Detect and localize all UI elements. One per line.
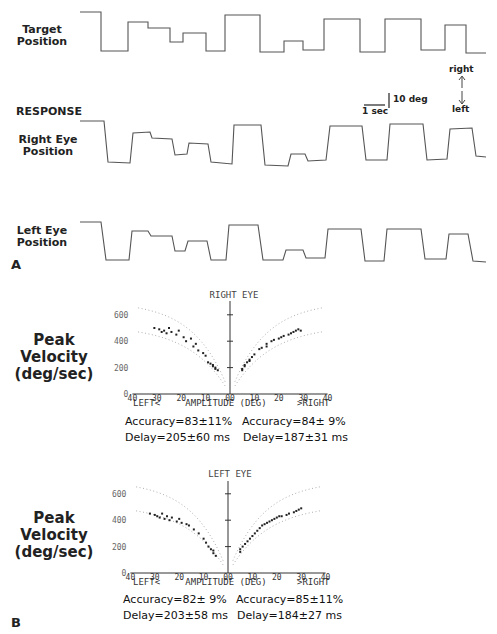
direction-arrow-icon xyxy=(459,76,465,104)
data-point xyxy=(149,513,151,515)
data-point xyxy=(259,527,261,529)
right-eye-position-trace xyxy=(80,121,486,166)
data-point xyxy=(168,519,170,521)
direction-right-label: right xyxy=(449,64,474,74)
data-point xyxy=(156,515,158,517)
y-tick-label: 400 xyxy=(112,516,127,525)
data-point xyxy=(188,524,190,526)
data-point xyxy=(268,521,270,523)
data-point xyxy=(278,338,280,340)
data-point xyxy=(209,363,211,365)
data-point xyxy=(288,334,290,336)
data-point xyxy=(264,523,266,525)
data-point xyxy=(283,335,285,337)
data-point xyxy=(295,510,297,512)
data-point xyxy=(244,543,246,545)
y-tick-label: 200 xyxy=(114,364,129,373)
data-point xyxy=(185,340,187,342)
data-point xyxy=(261,347,263,349)
x-center-label: AMPLITUDE (DEG) xyxy=(185,398,266,408)
x-tick-label: 20 xyxy=(274,394,284,403)
data-point xyxy=(292,331,294,333)
data-point xyxy=(197,349,199,351)
data-point xyxy=(290,332,292,334)
data-point xyxy=(242,546,244,548)
y-tick-label: 600 xyxy=(114,311,129,320)
data-point xyxy=(239,548,241,550)
data-point xyxy=(181,522,183,524)
data-point xyxy=(270,340,272,342)
data-point xyxy=(239,551,241,553)
plot-title: LEFT EYE xyxy=(208,469,251,479)
right-eye-scatter-plot: RIGHT EYE 6004002000 403020100010203040 … xyxy=(0,285,497,455)
data-point xyxy=(164,518,166,520)
scale-vertical-label: 10 deg xyxy=(393,94,428,104)
data-point xyxy=(247,540,249,542)
data-point xyxy=(161,513,163,515)
y-tick-label: 600 xyxy=(112,490,127,499)
data-point xyxy=(212,365,214,367)
data-point xyxy=(278,515,280,517)
data-point xyxy=(166,515,168,517)
data-point xyxy=(170,331,172,333)
left-eye-position-trace xyxy=(80,222,486,262)
data-point xyxy=(300,507,302,509)
plot1-right-accuracy: Accuracy=84± 9% xyxy=(242,415,346,428)
data-point xyxy=(266,345,268,347)
data-point xyxy=(163,330,165,332)
data-point xyxy=(280,336,282,338)
x-center-label: AMPLITUDE (DEG) xyxy=(185,577,266,587)
data-point xyxy=(210,548,212,550)
data-point xyxy=(244,364,246,366)
data-point xyxy=(295,330,297,332)
data-point xyxy=(166,332,168,334)
data-point xyxy=(297,328,299,330)
data-point xyxy=(256,530,258,532)
data-point xyxy=(273,339,275,341)
data-point xyxy=(249,538,251,540)
direction-left-label: left xyxy=(452,104,469,114)
data-point xyxy=(214,368,216,370)
x-right-label: >RIGHT xyxy=(297,398,330,408)
data-point xyxy=(153,327,155,329)
data-point xyxy=(281,515,283,517)
data-point xyxy=(207,546,209,548)
data-point xyxy=(192,345,194,347)
data-point xyxy=(254,532,256,534)
data-point xyxy=(251,356,253,358)
data-point xyxy=(266,522,268,524)
data-point xyxy=(271,519,273,521)
data-point xyxy=(258,348,260,350)
plot2-right-accuracy: Accuracy=85±11% xyxy=(236,593,343,606)
data-point xyxy=(168,327,170,329)
plot2-right-delay: Delay=184±27 ms xyxy=(237,609,342,622)
y-tick-label: 400 xyxy=(114,337,129,346)
data-point xyxy=(246,361,248,363)
data-point xyxy=(186,523,188,525)
data-point xyxy=(212,550,214,552)
data-point xyxy=(241,368,243,370)
data-point xyxy=(178,330,180,332)
data-point xyxy=(293,511,295,513)
plot1-left-accuracy: Accuracy=83±11% xyxy=(125,415,232,428)
scale-horizontal-label: 1 sec xyxy=(362,106,388,116)
data-point xyxy=(171,517,173,519)
data-point xyxy=(273,518,275,520)
plot-title: RIGHT EYE xyxy=(210,290,259,300)
data-point xyxy=(212,552,214,554)
data-point xyxy=(207,361,209,363)
plot2-left-accuracy: Accuracy=82± 9% xyxy=(123,593,227,606)
data-point xyxy=(159,517,161,519)
data-point xyxy=(276,517,278,519)
data-point xyxy=(288,513,290,515)
data-point xyxy=(249,359,251,361)
data-point xyxy=(215,555,217,557)
target-position-trace xyxy=(80,12,486,53)
data-point xyxy=(183,336,185,338)
x-tick-label: 20 xyxy=(272,573,282,582)
x-tick-label: 20 xyxy=(174,573,184,582)
y-tick-label: 200 xyxy=(112,543,127,552)
data-point xyxy=(198,532,200,534)
data-point xyxy=(161,331,163,333)
plot1-right-delay: Delay=187±31 ms xyxy=(243,431,348,444)
